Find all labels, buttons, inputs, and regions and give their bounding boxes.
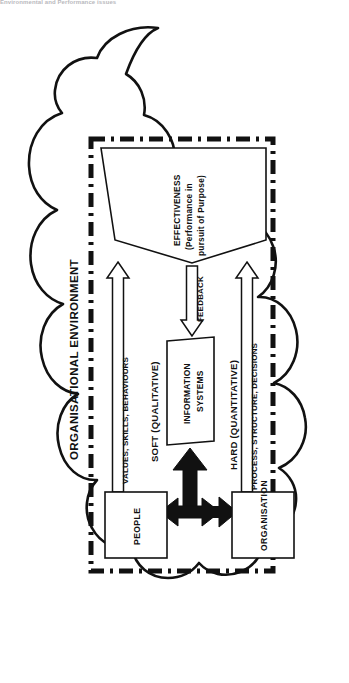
effectiveness-subtitle-line2: pursuit of Purpose) <box>196 175 206 256</box>
cloud-label: ORGANISATIONAL ENVIRONMENT <box>68 259 80 460</box>
diagram-svg <box>0 0 349 683</box>
soft-qualitative-label: SOFT (QUALITATIVE) <box>149 361 160 462</box>
hard-quantitative-label: HARD (QUANTITATIVE) <box>228 360 239 470</box>
people-label: PEOPLE <box>132 508 142 545</box>
information-systems-label-line1: INFORMATION <box>182 363 192 424</box>
effectiveness-subtitle-line1: (Performance in <box>184 183 194 250</box>
right-arrow-label: PROCESS, STRUCTURE, DECISIONS <box>250 343 259 490</box>
feedback-label: FEEDBACK <box>196 276 205 322</box>
information-systems-label-line2: SYSTEMS <box>195 371 205 412</box>
effectiveness-title: EFFECTIVENESS <box>172 175 182 246</box>
bold-arrow-right-stem <box>212 506 222 518</box>
organisation-label: ORGANISATION <box>259 480 269 551</box>
diagram-canvas: ORGANISATIONAL ENVIRONMENT EFFECTIVENESS… <box>0 0 349 683</box>
left-arrow-label: VALUES, SKILLS, BEHAVIOURS <box>121 357 130 484</box>
